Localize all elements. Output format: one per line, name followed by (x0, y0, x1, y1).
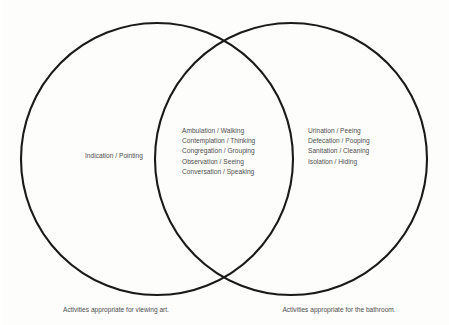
right-circle-caption: Activities appropriate for the bathroom. (236, 305, 442, 314)
right-region-item: Defecation / Pooping (308, 136, 370, 146)
right-region-item: Sanitation / Cleaning (308, 146, 370, 156)
left-circle-caption: Activities appropriate for viewing art. (18, 305, 214, 314)
center-region-item: Observation / Seeing (182, 157, 255, 167)
center-region-item: Conversation / Speaking (182, 167, 255, 177)
center-region-item: Contemplation / Thinking (182, 136, 255, 146)
center-region-list: Ambulation / Walking Contemplation / Thi… (182, 126, 255, 177)
right-region-list: Urination / Peeing Defecation / Pooping … (308, 126, 370, 167)
right-region-item: Urination / Peeing (308, 126, 370, 136)
right-region-item: Isolation / Hiding (308, 157, 370, 167)
venn-text-layer: Indication / Pointing Ambulation / Walki… (0, 0, 449, 325)
center-region-item: Congregation / Grouping (182, 146, 255, 156)
venn-diagram-canvas: Indication / Pointing Ambulation / Walki… (0, 0, 449, 325)
left-region-label: Indication / Pointing (52, 151, 176, 161)
center-region-item: Ambulation / Walking (182, 126, 255, 136)
